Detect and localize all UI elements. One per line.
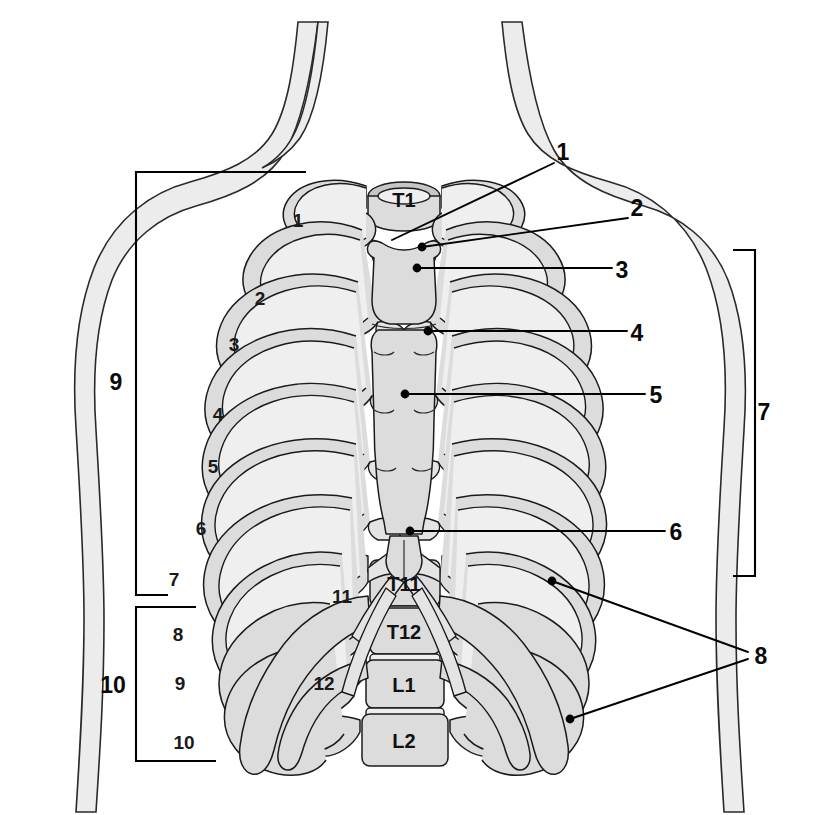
rib-number-8: 8 [173, 624, 184, 645]
vertebra-label-t11: T11 [387, 573, 420, 595]
rib-number-9: 9 [175, 673, 186, 694]
rib-number-6: 6 [196, 518, 207, 539]
rib-number-4: 4 [213, 404, 224, 425]
callout-label-3: 3 [616, 257, 629, 283]
leader-dot-5 [401, 390, 410, 399]
diagram-canvas: T1 T11 T12 L1 L2 1 2 3 4 5 6 7 8 9 10 11… [0, 0, 820, 815]
rib-number-3: 3 [229, 334, 240, 355]
leader-dot-8b [566, 715, 575, 724]
rib-number-11: 11 [332, 586, 353, 607]
callout-label-8: 8 [755, 643, 768, 669]
vertebra-label-t1: T1 [392, 189, 415, 211]
bracket-label-9: 9 [110, 369, 123, 395]
callout-label-5: 5 [650, 382, 663, 408]
rib-number-2: 2 [255, 288, 266, 309]
bracket-label-7: 7 [758, 399, 771, 425]
rib-number-1: 1 [293, 210, 304, 231]
leader-dot-6 [406, 527, 415, 536]
bracket-label-10: 10 [100, 672, 126, 698]
rib-number-10: 10 [173, 732, 194, 753]
vertebra-label-l2: L2 [392, 730, 415, 752]
callout-label-1: 1 [557, 139, 570, 165]
vertebra-label-l1: L1 [392, 674, 415, 696]
rib-number-5: 5 [208, 456, 219, 477]
leader-dot-2 [418, 243, 427, 252]
callout-label-6: 6 [670, 519, 683, 545]
leader-dot-8a [548, 577, 557, 586]
rib-number-12: 12 [313, 673, 334, 694]
thoracic-cage-illustration: T1 T11 T12 L1 L2 1 2 3 4 5 6 7 8 9 10 11… [0, 0, 820, 815]
callout-label-2: 2 [631, 195, 644, 221]
callout-label-4: 4 [631, 320, 644, 346]
rib-number-7: 7 [169, 569, 180, 590]
vertebra-label-t12: T12 [387, 621, 421, 643]
leader-dot-3 [413, 264, 422, 273]
leader-dot-4 [424, 327, 433, 336]
